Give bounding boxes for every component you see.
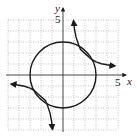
hyperbola-branch-q3 bbox=[11, 84, 53, 129]
x-axis-label: x bbox=[126, 75, 132, 87]
y-tick-label: 5 bbox=[55, 13, 61, 25]
x-tick-label: 5 bbox=[115, 76, 121, 88]
graph: y 5 x 5 bbox=[0, 0, 137, 137]
hyperbola-branch-q1 bbox=[74, 21, 116, 66]
